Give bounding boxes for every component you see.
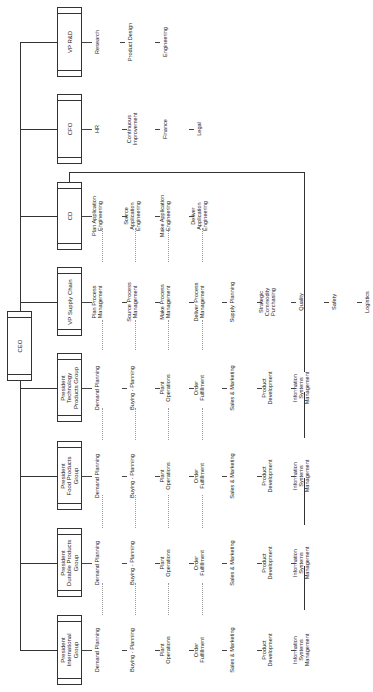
box-band	[58, 442, 81, 448]
dash-connector	[189, 476, 194, 477]
dotted-connector	[202, 495, 203, 528]
box-band	[58, 529, 81, 535]
cd-box-label: CD	[66, 212, 72, 221]
dotted-connector	[135, 408, 136, 440]
connector-line	[304, 566, 305, 610]
dotted-connector	[135, 495, 136, 528]
president-international-child-3: PlantOperations	[159, 636, 171, 663]
president-technology-products-box-label: PresidentTechnologyProducts Group	[60, 366, 79, 408]
branch-line	[20, 476, 57, 477]
president-food-products-child-1: Demand Planning	[94, 453, 100, 497]
dash-connector	[122, 388, 127, 389]
dash-connector	[82, 216, 92, 217]
president-international-child-6: ProductDevelopment	[261, 634, 273, 667]
president-durable-products-child-1: Demand Planning	[94, 540, 100, 584]
branch-line	[20, 216, 57, 217]
dash-connector	[82, 650, 92, 651]
president-technology-products-child-6: ProductDevelopment	[261, 371, 273, 404]
dash-connector	[291, 650, 296, 651]
president-durable-products-child-5: Sales & Marketing	[229, 540, 235, 585]
president-technology-products-child-3: PlantOperations	[159, 374, 171, 401]
dash-connector	[155, 302, 160, 303]
dotted-connector	[168, 495, 169, 528]
dash-connector	[155, 476, 160, 477]
president-international-child-4: OrderFulfillment	[193, 637, 205, 663]
box-band	[58, 8, 81, 14]
dash-connector	[291, 388, 296, 389]
vp-supply-chain-child-1: Plan ProcessManagement	[91, 285, 103, 318]
dash-connector	[82, 563, 92, 564]
president-technology-products-child-1: Demand Planning	[94, 365, 100, 409]
dash-connector	[122, 216, 127, 217]
box-band	[58, 678, 81, 684]
dotted-connector	[102, 320, 103, 350]
vp-supply-chain-child-4: Deliver ProcessManagement	[193, 282, 205, 321]
dash-connector	[82, 388, 92, 389]
dash-connector	[189, 650, 194, 651]
president-food-products-child-2: Buying - Planning	[129, 454, 135, 498]
dotted-connector	[202, 583, 203, 615]
box-band	[58, 183, 81, 189]
box-band	[58, 95, 81, 101]
connector-line	[304, 172, 305, 372]
president-international-child-1: Demand Planning	[94, 628, 100, 672]
president-food-products-child-4: OrderFulfillment	[193, 463, 205, 489]
dash-connector	[189, 129, 194, 130]
dotted-connector	[202, 228, 203, 262]
dotted-connector	[102, 495, 103, 528]
president-durable-products-box-label: PresidentDurable ProductsGroup	[60, 539, 79, 585]
connector-line	[69, 172, 305, 173]
dotted-connector	[135, 583, 136, 615]
president-technology-products-child-5: Sales & Marketing	[229, 365, 235, 410]
vp-supply-chain-child-5: Supply Planning	[229, 281, 235, 321]
president-food-products-child-5: Sales & Marketing	[229, 453, 235, 498]
box-band	[58, 157, 81, 163]
dash-connector	[189, 302, 194, 303]
dotted-connector	[202, 408, 203, 440]
branch-line	[20, 563, 57, 564]
dash-connector	[82, 302, 92, 303]
trunk-line	[20, 381, 21, 651]
dash-connector	[155, 563, 160, 564]
box-band	[58, 590, 81, 596]
dotted-connector	[102, 408, 103, 440]
dotted-connector	[102, 228, 103, 262]
dash-connector	[222, 302, 227, 303]
cfo-child-4: Legal	[196, 122, 202, 136]
vp-supply-chain-box-label: VP Supply Chain	[66, 279, 72, 324]
box-band	[58, 354, 81, 360]
dash-connector	[357, 302, 362, 303]
cfo-child-1: HR	[94, 125, 100, 133]
dash-connector	[291, 476, 296, 477]
dash-connector	[122, 476, 127, 477]
vp-supply-chain-child-9: Logistics	[364, 291, 370, 313]
president-durable-products-child-3: PlantOperations	[159, 549, 171, 576]
dash-connector	[155, 388, 160, 389]
ceo-box-label: CEO	[16, 339, 22, 352]
vp-rnd-box-label: VP R&D	[66, 31, 72, 53]
dash-connector	[222, 563, 227, 564]
box-band	[58, 268, 81, 274]
dash-connector	[155, 650, 160, 651]
dotted-connector	[202, 320, 203, 350]
box-band	[58, 243, 81, 249]
president-food-products-child-6: ProductDevelopment	[261, 459, 273, 492]
cd-child-3: Make ApplicationEngineering	[159, 195, 171, 237]
dash-connector	[122, 650, 127, 651]
president-technology-products-child-2: Buying - Planning	[129, 366, 135, 410]
dash-connector	[222, 476, 227, 477]
vp-supply-chain-child-2: Source ProcessManagement	[126, 282, 138, 321]
dash-connector	[257, 476, 262, 477]
president-international-child-5: Sales & Marketing	[229, 627, 235, 672]
president-food-products-box-label: PresidentFood ProductsGroup	[60, 456, 79, 495]
dash-connector	[257, 302, 262, 303]
box-band	[58, 503, 81, 509]
vp-supply-chain-child-3: Make ProcessManagement	[159, 284, 171, 319]
president-durable-products-child-2: Buying - Planning	[129, 541, 135, 585]
branch-line	[20, 650, 57, 651]
dash-connector	[257, 388, 262, 389]
cfo-child-3: Finance	[162, 119, 168, 139]
dotted-connector	[168, 408, 169, 440]
dotted-connector	[168, 228, 169, 262]
dash-connector	[82, 129, 92, 130]
